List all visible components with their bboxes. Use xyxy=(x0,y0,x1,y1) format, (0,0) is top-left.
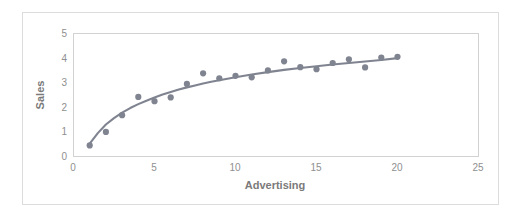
fitted-curve xyxy=(90,58,398,144)
x-axis-tick-labels: 0 5 10 15 20 25 xyxy=(70,162,484,173)
data-point xyxy=(346,56,352,62)
data-point xyxy=(135,94,141,100)
y-axis-title: Sales xyxy=(34,81,46,110)
data-point xyxy=(394,54,400,60)
data-point xyxy=(281,58,287,64)
data-point xyxy=(297,64,303,70)
x-tick-label-5: 5 xyxy=(151,162,157,173)
scatter-markers xyxy=(87,54,401,149)
scatter-plot-canvas: 5 4 3 2 1 0 0 5 10 15 20 25 Advertising … xyxy=(0,0,520,218)
data-point xyxy=(330,60,336,66)
data-point xyxy=(313,66,319,72)
data-point xyxy=(168,94,174,100)
x-axis-title: Advertising xyxy=(245,179,306,191)
data-point xyxy=(87,142,93,148)
data-point xyxy=(216,75,222,81)
chart-figure: 5 4 3 2 1 0 0 5 10 15 20 25 Advertising … xyxy=(0,0,520,218)
data-point xyxy=(362,64,368,70)
data-point xyxy=(378,55,384,61)
data-point xyxy=(200,70,206,76)
x-tick-label-20: 20 xyxy=(391,162,403,173)
y-tick-label-0: 0 xyxy=(61,151,67,162)
plot-area-border xyxy=(74,34,479,157)
x-tick-label-0: 0 xyxy=(70,162,76,173)
y-tick-label-2: 2 xyxy=(61,102,67,113)
y-tick-label-5: 5 xyxy=(61,28,67,39)
x-tick-label-10: 10 xyxy=(229,162,241,173)
y-tick-label-4: 4 xyxy=(61,53,67,64)
data-point xyxy=(232,73,238,79)
data-point xyxy=(249,74,255,80)
y-axis-tick-labels: 5 4 3 2 1 0 xyxy=(61,28,67,162)
data-point xyxy=(151,98,157,104)
data-point xyxy=(103,129,109,135)
y-tick-label-3: 3 xyxy=(61,77,67,88)
y-tick-label-1: 1 xyxy=(61,126,67,137)
data-point xyxy=(265,67,271,73)
data-point xyxy=(119,112,125,118)
data-point xyxy=(184,81,190,87)
x-tick-label-25: 25 xyxy=(472,162,484,173)
x-tick-label-15: 15 xyxy=(310,162,322,173)
